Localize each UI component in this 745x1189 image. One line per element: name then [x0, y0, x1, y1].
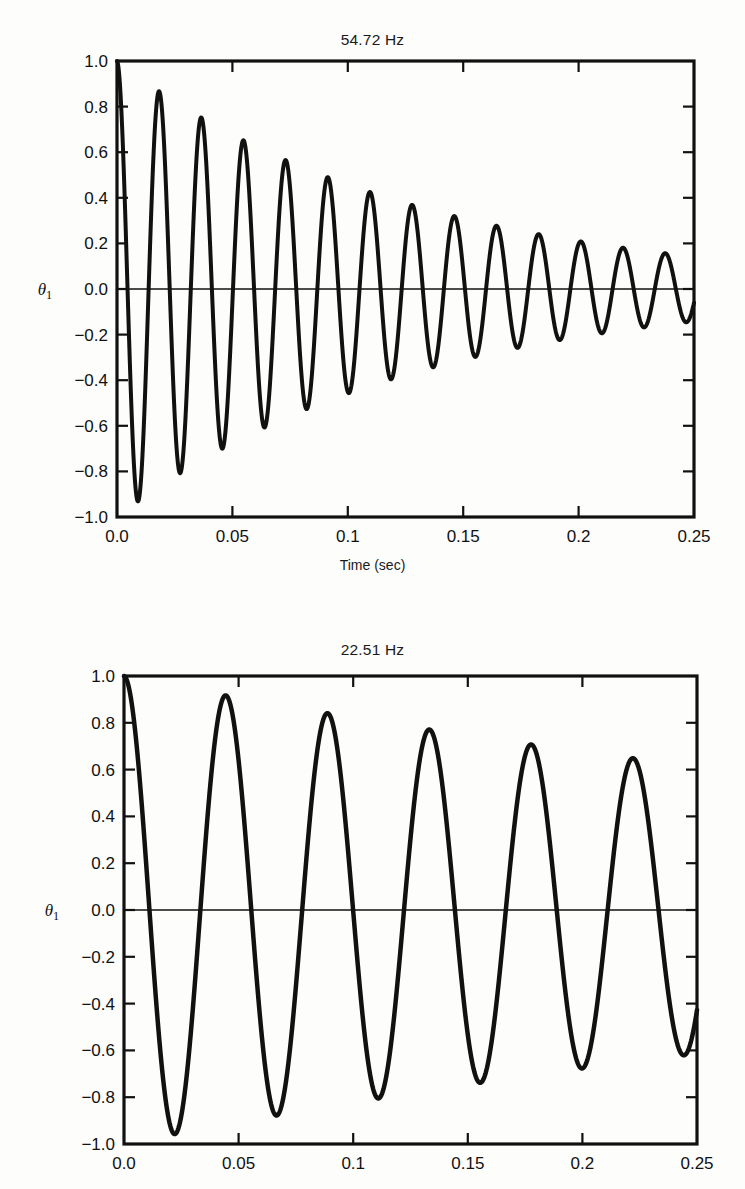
y-tick-label: 0.8 — [84, 98, 108, 117]
y-tick-label: 0.6 — [84, 143, 108, 162]
y-tick-label: −0.8 — [74, 462, 108, 481]
y-tick-label: −0.6 — [74, 417, 108, 436]
y-tick-label: −0.4 — [81, 995, 115, 1014]
figure-page: 54.72 Hz −1.0−0.8−0.6−0.4−0.20.00.20.40.… — [0, 0, 745, 1189]
x-tick-label: 0.0 — [105, 527, 129, 546]
y-tick-label: −1.0 — [81, 1135, 115, 1154]
y-tick-label: 1.0 — [91, 667, 115, 686]
y-axis-title: θ1 — [45, 901, 59, 923]
data-series-line — [124, 676, 697, 1134]
y-tick-label: −1.0 — [74, 508, 108, 527]
plot-area-bottom: −1.0−0.8−0.6−0.4−0.20.00.20.40.60.81.00.… — [0, 612, 745, 1189]
y-tick-label: −0.2 — [81, 948, 115, 967]
x-tick-label: 0.15 — [451, 1154, 484, 1173]
y-axis-title: θ1 — [38, 280, 52, 302]
plot-area-top: −1.0−0.8−0.6−0.4−0.20.00.20.40.60.81.00.… — [0, 0, 745, 600]
y-tick-label: 0.4 — [91, 807, 115, 826]
y-tick-label: −0.2 — [74, 326, 108, 345]
y-tick-label: −0.4 — [74, 371, 108, 390]
y-tick-label: 0.2 — [91, 854, 115, 873]
x-tick-label: 0.1 — [336, 527, 360, 546]
x-tick-label: 0.25 — [680, 1154, 713, 1173]
y-tick-label: 0.2 — [84, 234, 108, 253]
x-tick-label: 0.2 — [571, 1154, 595, 1173]
y-tick-label: 0.4 — [84, 189, 108, 208]
y-tick-label: −0.8 — [81, 1088, 115, 1107]
y-tick-label: −0.6 — [81, 1041, 115, 1060]
x-tick-label: 0.25 — [677, 527, 710, 546]
y-tick-label: 0.8 — [91, 714, 115, 733]
x-tick-label: 0.15 — [447, 527, 480, 546]
chart-figure-bottom: 22.51 Hz −1.0−0.8−0.6−0.4−0.20.00.20.40.… — [0, 612, 745, 1189]
x-tick-label: 0.2 — [567, 527, 591, 546]
data-series-line — [117, 61, 694, 501]
x-tick-label: 0.0 — [112, 1154, 136, 1173]
y-tick-label: 0.6 — [91, 761, 115, 780]
x-axis-caption-top: Time (sec) — [0, 557, 745, 573]
x-tick-label: 0.05 — [216, 527, 249, 546]
y-tick-label: 0.0 — [91, 901, 115, 920]
chart-figure-top: 54.72 Hz −1.0−0.8−0.6−0.4−0.20.00.20.40.… — [0, 0, 745, 600]
x-tick-label: 0.05 — [222, 1154, 255, 1173]
y-tick-label: 0.0 — [84, 280, 108, 299]
x-tick-label: 0.1 — [341, 1154, 365, 1173]
y-tick-label: 1.0 — [84, 52, 108, 71]
